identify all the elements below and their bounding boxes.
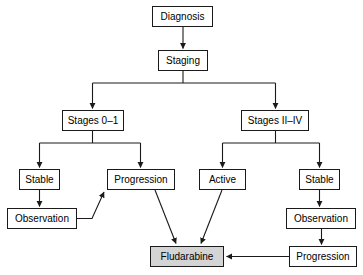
node-label-stages-2-4: Stages II–IV	[248, 116, 302, 126]
node-observation-left[interactable]: Observation	[7, 208, 77, 229]
node-label-observation-left: Observation	[15, 214, 69, 224]
node-label-active: Active	[209, 175, 236, 185]
node-fludarabine[interactable]: Fludarabine	[150, 246, 224, 267]
node-observation-right[interactable]: Observation	[286, 208, 356, 229]
edge-progression-left-to-fludarabine	[155, 190, 176, 244]
node-label-diagnosis: Diagnosis	[161, 12, 205, 22]
node-active[interactable]: Active	[199, 169, 246, 190]
node-stable-right[interactable]: Stable	[299, 169, 340, 190]
node-label-stable-left: Stable	[25, 175, 53, 185]
node-diagnosis[interactable]: Diagnosis	[152, 6, 213, 27]
node-label-progression-left: Progression	[114, 175, 167, 185]
edge-active-to-fludarabine	[201, 190, 222, 244]
node-label-progression-right: Progression	[296, 252, 349, 262]
flowchart-connectors	[0, 0, 363, 275]
node-staging[interactable]: Staging	[158, 50, 208, 71]
edge-observation-left-to-progression-left	[77, 192, 104, 219]
node-label-observation-right: Observation	[294, 214, 348, 224]
node-label-staging: Staging	[166, 56, 200, 66]
node-stages-0-1[interactable]: Stages 0–1	[62, 110, 124, 131]
node-stages-2-4[interactable]: Stages II–IV	[241, 110, 309, 131]
node-stable-left[interactable]: Stable	[19, 169, 60, 190]
flowchart-diagram: Diagnosis Staging Stages 0–1 Stages II–I…	[0, 0, 363, 275]
node-progression-right[interactable]: Progression	[289, 246, 357, 267]
node-label-stages-0-1: Stages 0–1	[68, 116, 119, 126]
node-label-stable-right: Stable	[305, 175, 333, 185]
node-progression-left[interactable]: Progression	[107, 169, 175, 190]
node-label-fludarabine: Fludarabine	[161, 252, 214, 262]
